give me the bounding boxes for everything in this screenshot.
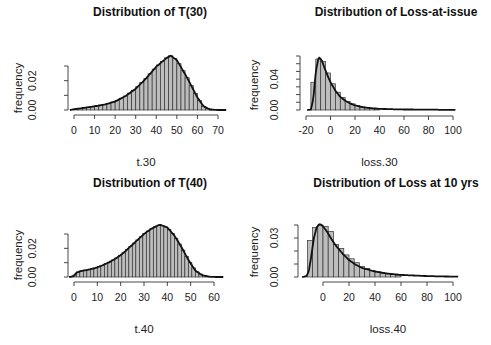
- x-tick-label: 100: [444, 124, 462, 136]
- x-tick-label: 80: [421, 291, 433, 303]
- y-axis-label: frequency: [12, 230, 24, 281]
- y-tick-label: 0.02: [26, 70, 38, 91]
- x-axis-label: t.40: [134, 323, 153, 335]
- histogram-bar: [127, 93, 131, 110]
- y-axis: 0.000.03frequency: [248, 225, 298, 287]
- x-tick-label: 0: [328, 124, 334, 136]
- x-tick-label: 30: [138, 291, 150, 303]
- x-axis: 010203040506070t.30: [71, 115, 224, 168]
- chart-title: Distribution of T(40): [93, 176, 207, 190]
- histogram-bar: [318, 225, 323, 277]
- y-tick-label: 0.04: [268, 69, 280, 90]
- histogram-bar: [104, 264, 108, 277]
- x-tick-label: 0: [71, 124, 77, 136]
- histogram-bar: [150, 229, 154, 277]
- histogram-bar: [152, 69, 156, 110]
- histogram-bar: [146, 231, 150, 277]
- histogram-bar: [178, 244, 182, 277]
- histogram-bar: [173, 59, 177, 110]
- histogram-panel-1: Distribution of T(30)0.000.02frequency01…: [12, 5, 226, 168]
- x-tick-label: 60: [192, 124, 204, 136]
- histogram-panel-4: Distribution of Loss at 10 yrs0.000.03fr…: [248, 176, 479, 335]
- histogram-bar: [160, 61, 164, 110]
- histogram-panel-2: Distribution of Loss-at-issue0.000.04fre…: [248, 5, 478, 168]
- x-tick-label: 0: [320, 291, 326, 303]
- x-tick-label: 20: [109, 124, 121, 136]
- histogram-bar: [157, 225, 161, 277]
- x-tick-label: 20: [115, 291, 127, 303]
- chart-title: Distribution of T(30): [93, 5, 207, 19]
- histogram-bar: [125, 250, 129, 277]
- histogram-bar: [115, 258, 119, 277]
- y-tick-label: 0.00: [26, 100, 38, 121]
- chart-title: Distribution of Loss-at-issue: [315, 5, 478, 19]
- histogram-bar: [144, 78, 148, 110]
- histogram-bars: [311, 59, 380, 110]
- histogram-bar: [153, 227, 157, 277]
- y-tick-label: 0.03: [268, 228, 280, 249]
- x-tick-label: 60: [395, 291, 407, 303]
- x-axis-label: loss.30: [361, 156, 397, 168]
- histogram-bar: [164, 227, 168, 277]
- x-tick-label: 60: [398, 124, 410, 136]
- histogram-bar: [97, 267, 101, 277]
- histogram-bar: [136, 240, 140, 277]
- x-tick-label: 70: [212, 124, 224, 136]
- x-tick-label: 40: [161, 291, 173, 303]
- histogram-bar: [148, 74, 152, 110]
- y-axis-label: frequency: [248, 60, 260, 111]
- x-tick-label: 30: [130, 124, 142, 136]
- x-axis: -20020406080100loss.30: [298, 116, 462, 168]
- x-tick-label: 20: [349, 124, 361, 136]
- histogram-bar: [123, 96, 127, 110]
- x-tick-label: 10: [89, 124, 101, 136]
- histogram-panel-3: Distribution of T(40)0.000.02frequency01…: [12, 176, 223, 335]
- histogram-bar: [156, 65, 160, 110]
- histogram-bars: [307, 225, 401, 277]
- x-axis: 0102030405060t.40: [71, 282, 220, 335]
- histogram-bar: [165, 58, 169, 110]
- x-axis: 020406080100loss.40: [320, 282, 462, 335]
- x-tick-label: 80: [423, 124, 435, 136]
- y-axis: 0.000.04frequency: [248, 56, 300, 120]
- histogram-bar: [139, 237, 143, 277]
- x-tick-label: 50: [171, 124, 183, 136]
- x-tick-label: 100: [444, 291, 462, 303]
- histogram-bar: [167, 230, 171, 277]
- histogram-bar: [132, 243, 136, 277]
- y-axis-label: frequency: [12, 63, 24, 114]
- histogram-bar: [122, 253, 126, 277]
- y-tick-label: 0.02: [26, 238, 38, 259]
- x-tick-label: 20: [343, 291, 355, 303]
- histogram-bar: [181, 71, 185, 110]
- histogram-bar: [129, 246, 133, 277]
- histogram-bar: [174, 238, 178, 277]
- histogram-bar: [169, 56, 173, 110]
- histogram-bar: [90, 269, 94, 277]
- y-tick-label: 0.00: [268, 100, 280, 121]
- x-tick-label: 40: [374, 124, 386, 136]
- histogram-bar: [171, 233, 175, 277]
- histogram-bar: [136, 87, 140, 110]
- histogram-bar: [118, 255, 122, 277]
- y-tick-label: 0.00: [268, 267, 280, 288]
- histogram-bar: [94, 268, 98, 277]
- x-axis-label: t.30: [136, 156, 155, 168]
- histogram-bar: [160, 225, 164, 277]
- x-axis-label: loss.40: [370, 323, 406, 335]
- histogram-grid: Distribution of T(30)0.000.02frequency01…: [0, 0, 491, 345]
- x-tick-label: 50: [185, 291, 197, 303]
- histogram-bar: [140, 83, 144, 110]
- chart-title: Distribution of Loss at 10 yrs: [313, 176, 479, 190]
- x-tick-label: 40: [369, 291, 381, 303]
- histogram-bar: [185, 78, 189, 110]
- y-axis: 0.000.02frequency: [12, 230, 68, 288]
- x-tick-label: 60: [208, 291, 220, 303]
- histogram-bar: [101, 265, 105, 277]
- histogram-bars: [74, 56, 214, 110]
- y-axis: 0.000.02frequency: [12, 63, 68, 121]
- y-axis-label: frequency: [248, 227, 260, 278]
- histogram-bar: [132, 90, 136, 110]
- histogram-bar: [333, 245, 338, 278]
- y-tick-label: 0.00: [26, 267, 38, 288]
